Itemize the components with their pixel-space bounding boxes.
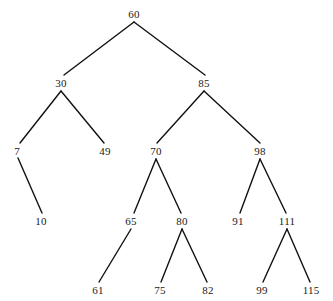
tree-node-111: 111 (279, 216, 295, 227)
tree-node-49: 49 (99, 146, 110, 157)
tree-node-65: 65 (125, 216, 136, 227)
tree-node-80: 80 (176, 216, 187, 227)
tree-node-60: 60 (128, 9, 139, 20)
binary-tree-diagram: 60308574970981065809111161758299115 (0, 0, 333, 301)
tree-node-30: 30 (55, 78, 66, 89)
tree-node-7: 7 (14, 146, 20, 157)
tree-node-115: 115 (303, 285, 320, 296)
tree-node-10: 10 (35, 216, 46, 227)
tree-node-91: 91 (232, 216, 243, 227)
tree-node-61: 61 (92, 285, 103, 296)
tree-node-98: 98 (254, 146, 265, 157)
tree-node-layer: 60308574970981065809111161758299115 (0, 0, 333, 301)
tree-node-75: 75 (154, 285, 165, 296)
tree-node-82: 82 (202, 285, 213, 296)
tree-node-99: 99 (256, 285, 267, 296)
tree-node-85: 85 (198, 78, 209, 89)
tree-node-70: 70 (150, 146, 161, 157)
